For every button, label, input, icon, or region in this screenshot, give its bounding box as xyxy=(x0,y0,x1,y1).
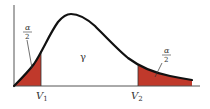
left-alpha-denominator: 2 xyxy=(25,33,29,41)
distribution-diagram: α 2 γ α 2 V1 V2 xyxy=(0,0,210,109)
confidence-label: γ xyxy=(80,51,86,62)
right-alpha-denominator: 2 xyxy=(164,56,168,64)
v2-label: V2 xyxy=(131,90,143,103)
left-alpha-pointer xyxy=(27,40,32,68)
v1-label: V1 xyxy=(36,90,48,103)
left-alpha-numerator: α xyxy=(25,23,31,32)
right-alpha-numerator: α xyxy=(164,46,170,55)
